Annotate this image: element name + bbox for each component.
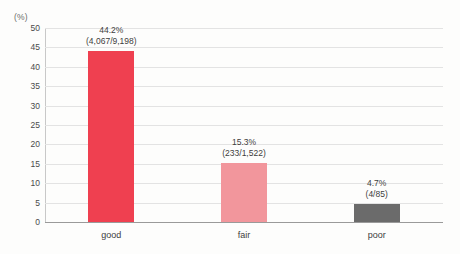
- bar-value-label-poor: 4.7%(4/85): [366, 178, 388, 201]
- gridline: [45, 47, 443, 48]
- bar-chart: (%) 0510152025303540455044.2%(4,067/9,19…: [0, 0, 460, 254]
- y-axis-tick-label: 45: [14, 42, 40, 52]
- bar-value-label-fair: 15.3%(233/1,522): [222, 137, 265, 160]
- bar-percent-fair: 15.3%: [222, 137, 265, 149]
- y-axis-unit-label: (%): [14, 12, 28, 22]
- y-axis-tick-label: 30: [14, 101, 40, 111]
- bar-fraction-fair: (233/1,522): [222, 148, 265, 160]
- bar-percent-good: 44.2%: [86, 25, 137, 37]
- y-axis-tick-label: 5: [14, 198, 40, 208]
- axis-baseline: [45, 222, 443, 223]
- bar-fair: [221, 163, 267, 222]
- y-axis-tick-label: 0: [14, 217, 40, 227]
- y-axis-tick-label: 20: [14, 139, 40, 149]
- y-axis-tick-label: 35: [14, 81, 40, 91]
- y-axis-tick-label: 40: [14, 62, 40, 72]
- bar-value-label-good: 44.2%(4,067/9,198): [86, 25, 137, 48]
- x-axis-category-label-good: good: [101, 230, 121, 240]
- bar-fraction-good: (4,067/9,198): [86, 36, 137, 48]
- bar-good: [88, 51, 134, 222]
- bar-percent-poor: 4.7%: [366, 178, 388, 190]
- bar-poor: [354, 204, 400, 222]
- y-axis-tick-label: 10: [14, 178, 40, 188]
- x-axis-category-label-fair: fair: [238, 230, 251, 240]
- y-axis-tick-label: 15: [14, 159, 40, 169]
- bar-fraction-poor: (4/85): [366, 189, 388, 201]
- x-axis-category-label-poor: poor: [368, 230, 386, 240]
- y-axis-tick-label: 25: [14, 120, 40, 130]
- y-axis-tick-label: 50: [14, 23, 40, 33]
